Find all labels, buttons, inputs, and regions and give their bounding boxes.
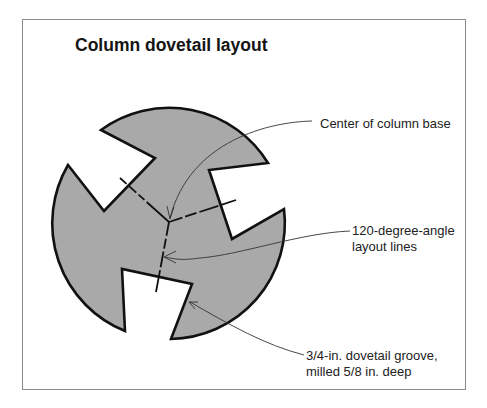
callout-layout-lines-line1: 120-degree-angle	[352, 223, 455, 239]
column-base-diagram	[0, 0, 487, 408]
callout-layout-lines: 120-degree-angle layout lines	[352, 223, 455, 255]
callout-groove: 3/4-in. dovetail groove, milled 5/8 in. …	[306, 348, 438, 380]
callout-center-text: Center of column base	[320, 116, 451, 132]
callout-center: Center of column base	[320, 116, 451, 132]
callout-layout-lines-line2: layout lines	[352, 239, 455, 255]
callout-groove-line2: milled 5/8 in. deep	[306, 364, 438, 380]
callout-groove-line1: 3/4-in. dovetail groove,	[306, 348, 438, 364]
